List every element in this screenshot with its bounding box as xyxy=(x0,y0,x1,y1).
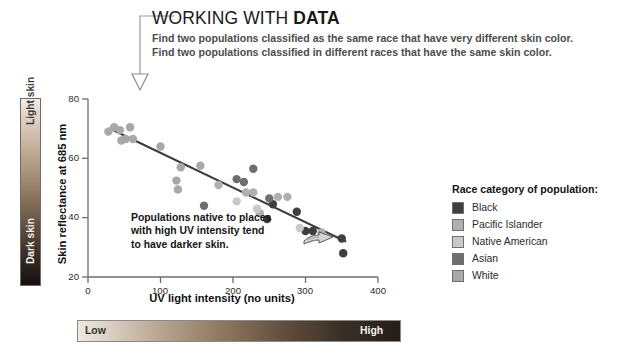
y-tick-label-20: 20 xyxy=(55,271,79,282)
annotation-line-3: to have darker skin. xyxy=(131,238,309,251)
uv-high-label: High xyxy=(360,324,383,338)
legend-item-label: Native American xyxy=(472,236,548,247)
legend-rows: BlackPacific IslanderNative AmericanAsia… xyxy=(452,199,612,284)
legend-item-pacific-islander: Pacific Islander xyxy=(452,216,612,233)
annotation-line-2: with high UV intensity tend xyxy=(131,224,309,237)
legend-item-label: Black xyxy=(472,202,497,213)
data-point xyxy=(156,142,164,150)
x-tick-label-400: 400 xyxy=(365,285,391,296)
x-tick-label-100: 100 xyxy=(147,285,173,296)
data-point xyxy=(242,188,250,196)
legend-item-white: White xyxy=(452,267,612,284)
annotation-line-1: Populations native to places xyxy=(131,211,309,224)
uv-low-label: Low xyxy=(85,324,106,338)
data-point xyxy=(232,197,240,205)
data-point xyxy=(283,193,291,201)
legend-item-asian: Asian xyxy=(452,250,612,267)
legend-item-label: White xyxy=(472,270,499,281)
x-tick-label-0: 0 xyxy=(75,285,101,296)
y-tick-label-60: 60 xyxy=(55,152,79,163)
data-point xyxy=(174,185,182,193)
data-point xyxy=(214,181,222,189)
legend-item-label: Pacific Islander xyxy=(472,219,542,230)
data-point xyxy=(172,176,180,184)
data-point xyxy=(196,162,204,170)
data-point xyxy=(240,178,248,186)
data-point xyxy=(249,188,257,196)
pointing-hand-icon xyxy=(302,228,342,250)
y-tick-label-80: 80 xyxy=(55,93,79,104)
legend-title: Race category of population: xyxy=(452,183,612,195)
x-axis-ticks xyxy=(88,277,378,283)
x-tick-label-300: 300 xyxy=(292,285,318,296)
legend-item-label: Asian xyxy=(472,253,498,264)
data-point xyxy=(232,175,240,183)
data-point xyxy=(265,194,273,202)
data-point xyxy=(122,135,130,143)
data-point xyxy=(129,135,137,143)
y-tick-label-40: 40 xyxy=(55,211,79,222)
legend-swatch xyxy=(452,236,464,248)
x-tick-label-200: 200 xyxy=(220,285,246,296)
data-point xyxy=(339,249,347,257)
legend-swatch xyxy=(452,219,464,231)
uv-intensity-gradient-bar xyxy=(77,320,401,342)
data-point xyxy=(116,126,124,134)
y-axis-title: Skin reflectance at 685 nm xyxy=(56,114,68,274)
y-axis-ticks xyxy=(82,99,88,277)
data-point xyxy=(249,165,257,173)
legend-item-black: Black xyxy=(452,199,612,216)
data-point xyxy=(200,202,208,210)
data-point xyxy=(274,193,282,201)
annotation-note: Populations native to places with high U… xyxy=(131,211,309,251)
legend-swatch xyxy=(452,270,464,282)
legend-panel: Race category of population: BlackPacifi… xyxy=(452,183,612,284)
legend-item-native-american: Native American xyxy=(452,233,612,250)
scatter-plot: Skin reflectance at 685 nm UV light inte… xyxy=(0,0,420,310)
legend-swatch xyxy=(452,253,464,265)
data-point xyxy=(126,123,134,131)
data-point xyxy=(177,163,185,171)
legend-swatch xyxy=(452,202,464,214)
